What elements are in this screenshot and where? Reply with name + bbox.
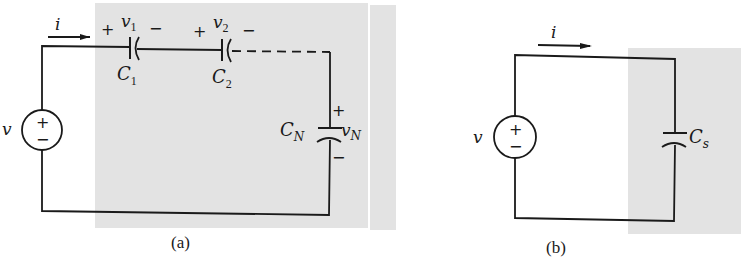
source-label: v	[473, 127, 483, 147]
c1-minus: −	[149, 19, 162, 38]
panel-a: + − v i + − v1 C1 + − v2 C2	[2, 3, 368, 252]
current-label: i	[551, 22, 556, 42]
shade-region-a	[95, 3, 368, 228]
cn-minus: −	[332, 148, 345, 167]
arrow-head-icon	[80, 34, 90, 40]
cn-plus: +	[332, 101, 345, 120]
c1-plus: +	[101, 20, 114, 39]
voltage-source-b: + − v	[473, 116, 536, 158]
source-label: v	[2, 119, 12, 139]
current-label: i	[55, 14, 60, 34]
shade-region-b	[628, 48, 741, 234]
voltage-source-a: + − v	[2, 110, 62, 150]
panel-b: + − v i Cs (b)	[370, 5, 741, 257]
c2-minus: −	[242, 21, 255, 40]
source-minus: −	[36, 130, 49, 149]
shade-strip-b-left	[370, 5, 396, 230]
caption-b: (b)	[546, 238, 566, 257]
caption-a: (a)	[171, 233, 190, 252]
current-arrow-b: i	[538, 22, 592, 49]
c2-plus: +	[193, 22, 206, 41]
source-minus: −	[509, 137, 522, 156]
wire-c1-c2	[137, 49, 222, 50]
current-arrow-a: i	[48, 14, 90, 40]
arrow-head-icon	[580, 43, 592, 49]
circuit-figure: + − v i + − v1 C1 + − v2 C2	[0, 0, 741, 259]
